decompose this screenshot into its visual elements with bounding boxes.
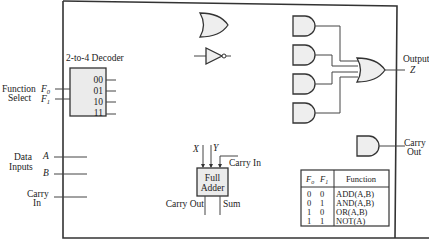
- not-gate-icon: [206, 48, 222, 64]
- carry-in-label-2: In: [33, 198, 41, 208]
- table-cell-function: NOT(A): [336, 216, 365, 226]
- function-select-label-2: Select: [8, 93, 32, 103]
- decoder-title: 2-to-4 Decoder: [66, 53, 125, 63]
- not-gate-bubble: [222, 54, 226, 58]
- carry-out-label-2: Out: [407, 147, 422, 157]
- fa-sum-label: Sum: [223, 199, 241, 209]
- fa-carry-out-label: Carry Out: [166, 199, 205, 209]
- fa-y-label: Y: [213, 143, 220, 153]
- and1-to-or-wire: [315, 26, 358, 61]
- full-adder-label: Full: [205, 173, 221, 183]
- output-label: Output: [403, 54, 429, 64]
- decoder-out-10: 10: [94, 97, 104, 107]
- fa-carry-in-label: Carry In: [229, 158, 261, 168]
- table-cell-f1: 1: [320, 216, 324, 226]
- output-z-label: Z: [410, 65, 416, 75]
- function-table: Fo F1 Function 0 0 ADD(A,B) 0 1 AND(A,B)…: [301, 170, 389, 226]
- input-b-label: B: [43, 168, 49, 178]
- table-cell-f0: 1: [307, 216, 311, 226]
- fa-x-label: X: [192, 144, 200, 154]
- or-gate-icon: [200, 13, 228, 37]
- carry-out-and-gate-icon: [357, 136, 379, 156]
- and-gate-icon: [293, 16, 315, 36]
- decoder-out-11: 11: [94, 108, 103, 118]
- f1-label: F1: [40, 94, 50, 105]
- and4-to-or-wire: [315, 77, 358, 113]
- and-gate-icon: [293, 103, 315, 123]
- input-a-label: A: [42, 151, 49, 161]
- data-inputs-label-2: Inputs: [9, 162, 33, 172]
- full-adder-label-2: Adder: [201, 183, 226, 193]
- and-gate-icon: [293, 74, 315, 94]
- decoder-out-00: 00: [94, 75, 104, 85]
- alu-diagram: 2-to-4 Decoder 00 01 10 11 Function Sele…: [0, 0, 429, 244]
- decoder-out-01: 01: [94, 86, 104, 96]
- table-header-function: Function: [346, 174, 377, 184]
- data-inputs-label: Data: [14, 152, 33, 162]
- and-gate-icon: [293, 45, 315, 65]
- and3-to-or-wire: [315, 72, 358, 84]
- output-or-gate-icon: [357, 58, 385, 82]
